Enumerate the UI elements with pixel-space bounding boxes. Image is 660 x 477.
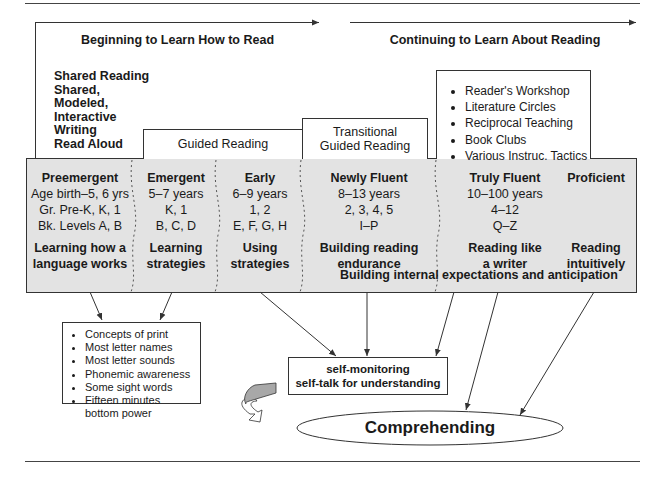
shared-reading-item: Modeled, — [54, 97, 149, 111]
stage-newly-fluent: Newly Fluent 8–13 years 2, 3, 4, 5 I–P B… — [305, 170, 433, 272]
stage-grade: 2, 3, 4, 5 — [305, 202, 433, 218]
stage-age: 5–7 years — [135, 186, 217, 202]
stage-age: 10–100 years — [455, 186, 555, 202]
stage-title: Early — [219, 170, 301, 186]
stage-title: Preemergent — [28, 170, 132, 186]
tactic-item: Reciprocal Teaching — [465, 115, 590, 131]
skill-item: Phonemic awareness — [85, 368, 196, 381]
stage-goal: Learning how alanguage works — [28, 240, 132, 272]
tactic-item: Literature Circles — [465, 99, 590, 115]
stage-grade: 4–12 — [455, 202, 555, 218]
stage-grade: K, 1 — [135, 202, 217, 218]
stage-title: Emergent — [135, 170, 217, 186]
cycle-arrow-icon — [242, 383, 276, 422]
shared-reading-list: Shared Reading Shared, Modeled, Interact… — [54, 70, 149, 151]
stage-preemergent: Preemergent Age birth–5, 6 yrs Gr. Pre-K… — [28, 170, 132, 272]
header-continuing: Continuing to Learn About Reading — [350, 33, 640, 47]
self-talk-label: self-talk for understanding — [289, 376, 447, 390]
stage-title: Truly Fluent — [455, 170, 555, 186]
transitional-label: Guided Reading — [303, 139, 427, 153]
comprehending-label: Comprehending — [297, 418, 563, 438]
stage-grade: 1, 2 — [219, 202, 301, 218]
stage-age: 8–13 years — [305, 186, 433, 202]
stage-levels: I–P — [305, 218, 433, 234]
tactic-item: Various Instruc. Tactics — [465, 148, 590, 164]
early-skills-box: Concepts of print Most letter names Most… — [62, 322, 201, 404]
shared-reading-item: Shared, — [54, 84, 149, 98]
header-beginning: Beginning to Learn How to Read — [35, 33, 320, 47]
shared-reading-item: Read Aloud — [54, 138, 149, 152]
guided-reading-box: Guided Reading — [143, 129, 303, 159]
stage-proficient: Proficient Readingintuitively — [558, 170, 634, 272]
stage-title: Newly Fluent — [305, 170, 433, 186]
self-monitoring-label: self-monitoring — [289, 362, 447, 376]
stage-levels: Bk. Levels A, B — [28, 218, 132, 234]
transitional-guided-reading-box: Transitional Guided Reading — [302, 118, 428, 159]
expectations-label: Building internal expectations and antic… — [340, 268, 618, 282]
transitional-label: Transitional — [303, 125, 427, 139]
shared-reading-item: Writing — [54, 124, 149, 138]
skill-item: Fifteen minutes bottom power — [85, 394, 196, 420]
tactic-item: Book Clubs — [465, 132, 590, 148]
tactic-item: Reader's Workshop — [465, 83, 590, 99]
stage-grade: Gr. Pre-K, K, 1 — [28, 202, 132, 218]
self-monitoring-box: self-monitoring self-talk for understand… — [288, 357, 448, 395]
stage-age: Age birth–5, 6 yrs — [28, 186, 132, 202]
stage-age: 6–9 years — [219, 186, 301, 202]
skill-item: Most letter sounds — [85, 354, 196, 367]
skill-item: Concepts of print — [85, 328, 196, 341]
stage-emergent: Emergent 5–7 years K, 1 B, C, D Learning… — [135, 170, 217, 272]
shared-reading-item: Shared Reading — [54, 70, 149, 84]
stage-levels: B, C, D — [135, 218, 217, 234]
shared-reading-item: Interactive — [54, 111, 149, 125]
instructional-tactics-box: Reader's Workshop Literature Circles Rec… — [436, 70, 591, 159]
stage-goal: Usingstrategies — [219, 240, 301, 272]
stage-levels: E, F, G, H — [219, 218, 301, 234]
stage-goal: Learningstrategies — [135, 240, 217, 272]
stage-levels: Q–Z — [455, 218, 555, 234]
stage-title: Proficient — [558, 170, 634, 186]
stage-truly-fluent: Truly Fluent 10–100 years 4–12 Q–Z Readi… — [455, 170, 555, 272]
skill-item: Some sight words — [85, 381, 196, 394]
stage-early: Early 6–9 years 1, 2 E, F, G, H Usingstr… — [219, 170, 301, 272]
skill-item: Most letter names — [85, 341, 196, 354]
